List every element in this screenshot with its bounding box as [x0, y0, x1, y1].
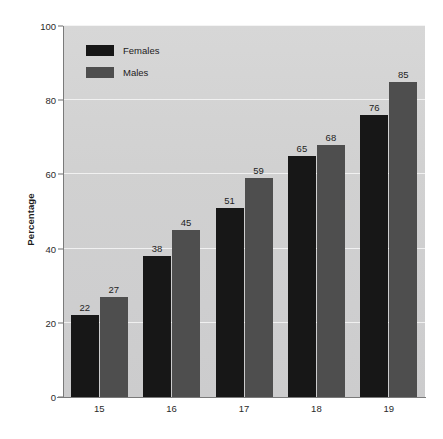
x-axis-line: [57, 397, 426, 398]
bar-value-label: 45: [181, 217, 192, 228]
bar-males-15: [100, 297, 128, 397]
bar-value-label: 59: [253, 165, 264, 176]
bar-value-label: 85: [398, 69, 409, 80]
bar-females-16: [143, 256, 171, 397]
bar-females-17: [216, 208, 244, 397]
x-axis-tick-labels: 1516171819: [63, 401, 425, 419]
gridline: [63, 25, 425, 26]
bar-value-label: 68: [326, 132, 337, 143]
x-tick-label-16: 16: [166, 403, 177, 414]
bar-females-19: [360, 115, 388, 397]
bar-males-19: [389, 82, 417, 397]
y-tick-label: 20: [30, 317, 56, 328]
bar-value-label: 27: [108, 284, 119, 295]
bar-value-label: 51: [224, 195, 235, 206]
bar-males-16: [172, 230, 200, 397]
chart-legend: FemalesMales: [86, 42, 206, 86]
x-tick-label-17: 17: [239, 403, 250, 414]
bar-value-label: 65: [297, 143, 308, 154]
legend-item: Females: [86, 42, 206, 59]
y-axis-tick-labels: 020406080100: [35, 19, 63, 411]
y-axis-line: [63, 26, 64, 398]
bar-value-label: 38: [152, 243, 163, 254]
bar-males-18: [317, 145, 345, 397]
y-tick-label: 60: [30, 169, 56, 180]
x-tick-label-19: 19: [384, 403, 395, 414]
bar-chart-figure: Percentage 020406080100 2227384551596568…: [0, 0, 443, 439]
bar-females-15: [71, 315, 99, 397]
bar-value-label: 76: [369, 102, 380, 113]
legend-label: Males: [123, 67, 148, 78]
y-tick-label: 0: [30, 392, 56, 403]
legend-swatch-icon: [86, 45, 114, 56]
gridline: [63, 99, 425, 100]
y-axis-title-text: Percentage: [25, 193, 36, 245]
x-tick-label-18: 18: [311, 403, 322, 414]
y-tick-label: 40: [30, 243, 56, 254]
bar-females-18: [288, 156, 316, 397]
bar-value-label: 22: [79, 302, 90, 313]
y-tick-label: 80: [30, 95, 56, 106]
legend-item: Males: [86, 64, 206, 81]
y-tick-label: 100: [30, 21, 56, 32]
legend-label: Females: [123, 45, 159, 56]
bar-males-17: [245, 178, 273, 397]
legend-swatch-icon: [86, 67, 114, 78]
x-tick-label-15: 15: [94, 403, 105, 414]
